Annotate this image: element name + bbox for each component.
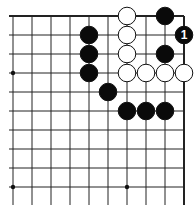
white-stone	[118, 7, 136, 25]
white-stone	[156, 64, 174, 82]
black-stone	[137, 102, 155, 120]
move-number-label: 1	[181, 28, 188, 42]
star-point	[11, 71, 15, 75]
star-point	[11, 185, 15, 189]
black-stone	[80, 64, 98, 82]
black-stone	[156, 7, 174, 25]
black-stone	[80, 26, 98, 44]
white-stone	[137, 64, 155, 82]
white-stone	[175, 64, 193, 82]
white-stone	[118, 45, 136, 63]
black-stone	[99, 83, 117, 101]
white-stone	[118, 26, 136, 44]
black-stone	[156, 45, 174, 63]
star-point	[125, 185, 129, 189]
black-stone	[156, 102, 174, 120]
white-stone	[118, 64, 136, 82]
go-board: 1	[0, 0, 196, 205]
black-stone	[80, 45, 98, 63]
black-stone	[118, 102, 136, 120]
